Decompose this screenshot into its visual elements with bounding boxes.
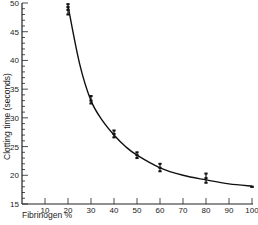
y-tick-label: 15 bbox=[10, 200, 19, 209]
data-point bbox=[158, 163, 161, 165]
data-point bbox=[135, 157, 138, 159]
x-tick-label: 50 bbox=[133, 206, 142, 215]
y-tick-label: 20 bbox=[10, 171, 19, 180]
x-tick-label: 30 bbox=[87, 206, 96, 215]
data-point bbox=[112, 133, 115, 135]
data-point bbox=[89, 103, 92, 105]
data-points bbox=[66, 3, 253, 188]
x-tick-label: 60 bbox=[156, 206, 165, 215]
data-point bbox=[158, 167, 161, 169]
data-point bbox=[135, 151, 138, 153]
data-point bbox=[66, 9, 69, 11]
data-point bbox=[89, 100, 92, 102]
y-axis-title: Clotting time (seconds) bbox=[2, 73, 12, 160]
data-point bbox=[66, 6, 69, 8]
x-axis-title: Fibrinogen % bbox=[22, 210, 73, 220]
data-point bbox=[204, 173, 207, 175]
fitted-curve bbox=[68, 6, 252, 186]
clotting-time-chart: 1520253035404550102030405060708090100 Fi… bbox=[0, 0, 258, 225]
data-point bbox=[158, 170, 161, 172]
data-point bbox=[204, 182, 207, 184]
data-point bbox=[66, 3, 69, 5]
data-point bbox=[89, 95, 92, 97]
x-tick-label: 80 bbox=[202, 206, 211, 215]
data-point bbox=[112, 136, 115, 138]
data-point bbox=[66, 13, 69, 15]
y-tick-label: 40 bbox=[10, 56, 19, 65]
x-tick-label: 90 bbox=[225, 206, 234, 215]
data-point bbox=[250, 186, 253, 188]
data-point bbox=[204, 177, 207, 179]
data-point bbox=[112, 129, 115, 131]
y-tick-label: 50 bbox=[10, 0, 19, 8]
y-tick-label: 45 bbox=[10, 28, 19, 37]
data-point bbox=[135, 154, 138, 156]
x-tick-label: 100 bbox=[245, 206, 258, 215]
x-tick-label: 40 bbox=[110, 206, 119, 215]
x-tick-label: 70 bbox=[179, 206, 188, 215]
fit-line bbox=[68, 6, 252, 186]
